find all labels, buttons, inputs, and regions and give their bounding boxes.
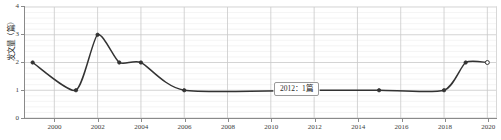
y-tick-mark [21, 6, 24, 7]
x-tick-mark [315, 119, 316, 122]
x-tick-mark [185, 119, 186, 122]
x-tick-label: 2002 [78, 123, 118, 131]
x-tick-mark [488, 119, 489, 122]
y-tick-label: 4 [0, 3, 19, 10]
x-tick-mark [358, 119, 359, 122]
plot-area [24, 6, 497, 118]
x-tick-label: 2020 [468, 123, 501, 131]
x-tick-label: 2012 [295, 123, 335, 131]
x-tick-mark [141, 119, 142, 122]
series-line-layer [24, 7, 496, 118]
x-tick-mark [402, 119, 403, 122]
y-tick-mark [21, 90, 24, 91]
x-tick-label: 2000 [34, 123, 74, 131]
x-tick-label: 2010 [251, 123, 291, 131]
x-tick-mark [228, 119, 229, 122]
x-tick-label: 2014 [338, 123, 378, 131]
y-tick-label: 2 [0, 59, 19, 66]
y-axis-line [24, 6, 25, 119]
y-tick-mark [21, 34, 24, 35]
x-tick-label: 2018 [425, 123, 465, 131]
x-tick-label: 2004 [121, 123, 161, 131]
y-tick-label: 1 [0, 87, 19, 94]
publication-year-trend-chart: 发文量（篇） 发表年度趋势 01234 20002002200420062008… [0, 0, 501, 140]
y-tick-mark [21, 62, 24, 63]
data-point-tooltip[interactable]: 2012：1篇 [274, 82, 319, 96]
x-tick-mark [445, 119, 446, 122]
y-tick-label: 0 [0, 115, 19, 122]
y-axis-title: 发文量（篇） [5, 2, 16, 78]
x-axis-line [24, 118, 497, 119]
x-tick-label: 2008 [208, 123, 248, 131]
x-tick-mark [54, 119, 55, 122]
x-tick-mark [271, 119, 272, 122]
y-tick-label: 3 [0, 31, 19, 38]
x-tick-label: 2006 [165, 123, 205, 131]
x-tick-mark [98, 119, 99, 122]
y-tick-mark [21, 118, 24, 119]
x-tick-label: 2016 [382, 123, 422, 131]
